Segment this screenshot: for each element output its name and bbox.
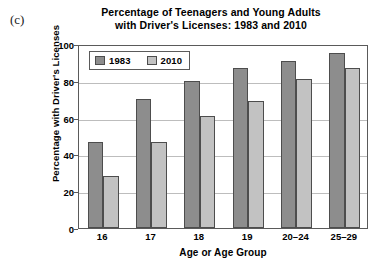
legend-entry: 2010 — [147, 55, 183, 66]
bar — [184, 81, 200, 228]
y-tick-label: 60 — [44, 113, 74, 124]
bar-group — [272, 46, 320, 228]
x-axis-title: Age or Age Group — [78, 247, 368, 258]
chart-title-line-2: with Driver's Licenses: 1983 and 2010 — [66, 19, 356, 32]
y-tick-label: 80 — [44, 76, 74, 87]
bar-group — [127, 46, 175, 228]
bar-group — [79, 46, 127, 228]
bar — [345, 68, 361, 228]
plot-area: 19832010 — [78, 45, 368, 229]
chart-title: Percentage of Teenagers and Young Adults… — [66, 6, 356, 31]
chart-legend: 19832010 — [89, 51, 190, 70]
legend-entry: 1983 — [95, 55, 131, 66]
bar — [103, 176, 119, 228]
y-tick-label: 40 — [44, 150, 74, 161]
x-tick-label: 18 — [194, 231, 205, 242]
bars-layer — [79, 46, 367, 228]
x-tick-label: 19 — [242, 231, 253, 242]
bar — [329, 53, 345, 228]
bar — [233, 68, 249, 228]
y-tick-label: 20 — [44, 187, 74, 198]
bar — [136, 99, 152, 228]
legend-swatch — [95, 56, 105, 65]
x-tick-label: 16 — [97, 231, 108, 242]
bar — [248, 101, 264, 228]
bar-group — [176, 46, 224, 228]
y-tick-mark — [74, 229, 78, 230]
y-tick-label: 0 — [44, 224, 74, 235]
x-axis-ticks: 1617181920–2425–29 — [78, 231, 368, 245]
legend-label: 1983 — [109, 55, 131, 66]
x-tick-label: 25–29 — [331, 231, 357, 242]
x-tick-label: 17 — [145, 231, 156, 242]
bar — [281, 61, 297, 228]
legend-label: 2010 — [161, 55, 183, 66]
bar-group — [224, 46, 272, 228]
legend-swatch — [147, 56, 157, 65]
chart-title-line-1: Percentage of Teenagers and Young Adults — [66, 6, 356, 19]
bar — [151, 142, 167, 228]
bar — [200, 116, 216, 228]
panel-label: (c) — [10, 12, 24, 28]
x-tick-label: 20–24 — [282, 231, 308, 242]
bar-group — [321, 46, 369, 228]
bar — [296, 79, 312, 228]
bar — [88, 142, 104, 228]
y-tick-label: 100 — [44, 40, 74, 51]
